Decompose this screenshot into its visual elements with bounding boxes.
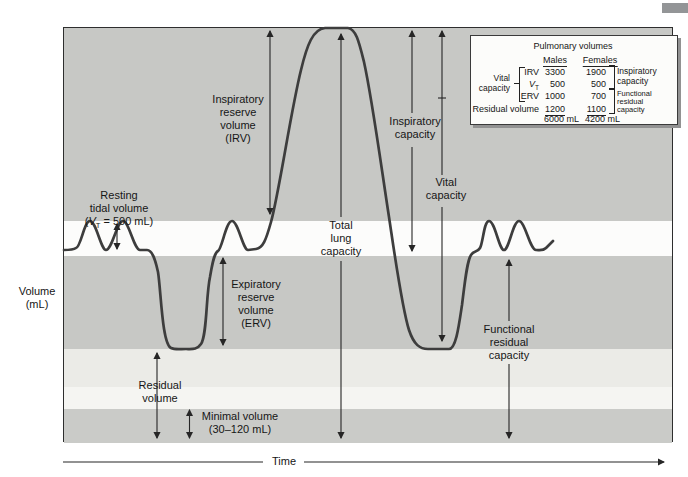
resting-tidal-volume-lines: Resting tidal volume: [90, 189, 149, 214]
value-erv-males: 1000: [545, 91, 565, 101]
minimal-volume-label: Minimal volume (30–120 mL): [202, 410, 278, 436]
resting-tidal-volume-label: Resting tidal volume (VT = 500 mL): [85, 176, 154, 228]
total-females: 4200 mL: [585, 114, 620, 124]
pulmonary-volumes-table: Pulmonary volumes Males Females IRV VT E…: [470, 35, 678, 125]
vital-capacity-bracket-label: Vital capacity: [479, 74, 510, 93]
value-erv-females: 700: [591, 91, 606, 101]
value-residual-males: 1200: [545, 104, 565, 114]
value-irv-males: 3300: [545, 67, 565, 77]
inspiratory-capacity-label: Inspiratory capacity: [389, 115, 440, 141]
irv-label: Inspiratory reserve volume (IRV): [212, 93, 263, 145]
x-axis-label: Time: [272, 455, 296, 468]
figure-canvas: Volume (mL) Resting tidal volume (VT = 5…: [0, 0, 688, 477]
resting-tidal-volume-formula: (VT = 500 mL): [85, 215, 154, 227]
row-label-irv: IRV: [524, 67, 539, 77]
value-vt-males: 500: [550, 79, 565, 89]
residual-volume-label: Residual volume: [139, 379, 182, 405]
column-header-males: Males: [543, 55, 567, 65]
measure-arrows: [117, 31, 509, 438]
vital-capacity-bracket: [519, 67, 525, 102]
vital-capacity-label: Vital capacity: [426, 176, 466, 202]
row-label-vt: VT: [529, 79, 539, 89]
value-vt-females: 500: [591, 79, 606, 89]
total-lung-capacity-label: Total lung capacity: [321, 219, 361, 258]
value-irv-females: 1900: [586, 67, 606, 77]
y-axis-label: Volume (mL): [19, 285, 56, 311]
table-title: Pulmonary volumes: [533, 41, 612, 51]
row-label-residual-volume: Residual volume: [472, 104, 539, 114]
erv-label: Expiratory reserve volume (ERV): [231, 278, 281, 330]
frc-bracket: [609, 89, 615, 114]
inspiratory-capacity-bracket: [609, 65, 615, 89]
vital-capacity-bracket-dash: [514, 83, 519, 84]
value-residual-females: 1100: [587, 104, 606, 114]
total-males: 6000 mL: [544, 114, 579, 124]
inspiratory-capacity-bracket-label: Inspiratory capacity: [617, 67, 657, 86]
frc-bracket-label: Functional residual capacity: [617, 90, 652, 113]
frc-label: Functional residual capacity: [484, 323, 535, 362]
column-header-females: Females: [583, 55, 618, 65]
